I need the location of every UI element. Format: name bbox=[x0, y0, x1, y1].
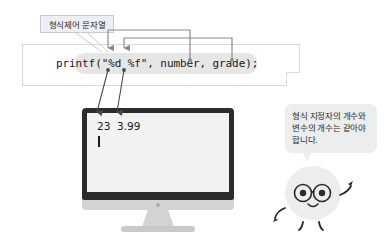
brand-logo-dot bbox=[156, 203, 160, 207]
format-string-label-text: 형식제어 문자열 bbox=[49, 18, 106, 30]
page-fold-corner bbox=[286, 72, 300, 86]
speech-bubble: 형식 지정자의 개수와 변수의 개수는 같아야 합니다. bbox=[285, 104, 377, 153]
code-statement: printf("%d %f", number, grade); bbox=[56, 57, 258, 70]
format-string-label: 형식제어 문자열 bbox=[40, 15, 114, 33]
text-cursor bbox=[98, 136, 100, 147]
mascot-character bbox=[272, 160, 362, 235]
monitor-stand-base bbox=[121, 226, 195, 232]
computer-monitor: 23 3.99 bbox=[82, 108, 234, 235]
monitor-bezel: 23 3.99 bbox=[82, 108, 234, 200]
monitor-stand-neck bbox=[142, 210, 174, 227]
monitor-chin bbox=[82, 200, 234, 210]
console-output: 23 3.99 bbox=[97, 120, 140, 132]
illustration-canvas: 형식제어 문자열 printf("%d %f", number, grade);… bbox=[0, 0, 391, 235]
speech-bubble-line-3: 합니다. bbox=[292, 134, 370, 146]
speech-bubble-line-2: 변수의 개수는 같아야 bbox=[292, 122, 370, 134]
speech-bubble-line-1: 형식 지정자의 개수와 bbox=[292, 110, 370, 122]
monitor-screen: 23 3.99 bbox=[87, 113, 229, 192]
